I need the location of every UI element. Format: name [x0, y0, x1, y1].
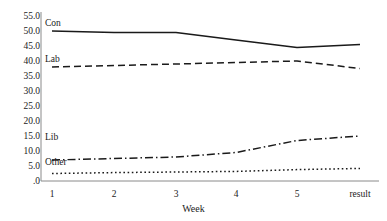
x-tick-label: 2 — [112, 189, 117, 200]
series-label-con: Con — [45, 18, 61, 28]
series-label-lab: Lab — [45, 54, 60, 64]
x-tick-label: 1 — [50, 189, 55, 200]
series-label-other: Other — [45, 157, 67, 167]
x-tick-label: 4 — [234, 189, 239, 200]
line-chart: 55.050.045.040.035.030.025.020.015.010.0… — [0, 0, 387, 221]
series-line-other — [52, 168, 360, 173]
plot-area — [0, 0, 387, 221]
series-line-lab — [52, 61, 360, 69]
series-line-con — [52, 31, 360, 48]
series-label-lib: Lib — [45, 132, 58, 142]
x-axis-title: Week — [0, 203, 387, 214]
series-lines — [52, 31, 360, 174]
series-line-lib — [52, 136, 360, 160]
x-tick-label: result — [349, 189, 370, 200]
x-tick-label: 3 — [174, 189, 179, 200]
x-tick-label: 5 — [295, 189, 300, 200]
